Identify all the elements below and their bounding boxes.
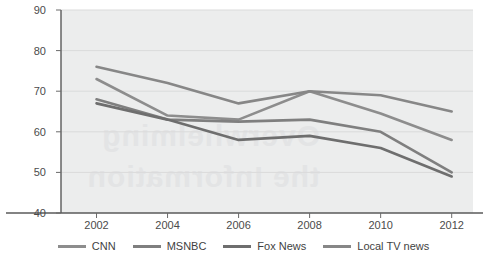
legend-item-local-tv-news[interactable]: Local TV news	[323, 240, 429, 252]
x-axis-tick-label: 2002	[73, 219, 121, 231]
line-chart: Overwhelming the Information 90807060504…	[0, 0, 487, 263]
x-axis-tick-label: 2012	[428, 219, 476, 231]
series-line-fox-news	[97, 103, 452, 176]
y-axis-tick-label: 90	[16, 4, 46, 16]
legend-label: Local TV news	[357, 240, 429, 252]
chart-legend: CNNMSNBCFox NewsLocal TV news	[0, 240, 487, 252]
x-axis-tick-label: 2004	[144, 219, 192, 231]
legend-label: Fox News	[257, 240, 306, 252]
legend-item-cnn[interactable]: CNN	[58, 240, 116, 252]
legend-label: CNN	[92, 240, 116, 252]
series-line-cnn	[97, 79, 452, 140]
x-axis-tick-label: 2010	[357, 219, 405, 231]
legend-swatch-icon	[133, 245, 161, 248]
legend-item-fox-news[interactable]: Fox News	[223, 240, 306, 252]
x-axis-tick-label: 2008	[286, 219, 334, 231]
legend-swatch-icon	[323, 245, 351, 248]
legend-item-msnbc[interactable]: MSNBC	[133, 240, 207, 252]
legend-swatch-icon	[223, 245, 251, 248]
y-axis-tick-label: 80	[16, 45, 46, 57]
x-axis-tick-label: 2006	[215, 219, 263, 231]
y-axis-tick-label: 40	[16, 207, 46, 219]
legend-swatch-icon	[58, 245, 86, 248]
legend-label: MSNBC	[167, 240, 207, 252]
series-line-msnbc	[97, 99, 452, 172]
y-axis-tick-label: 50	[16, 166, 46, 178]
y-axis-tick-label: 60	[16, 126, 46, 138]
y-axis-tick-label: 70	[16, 85, 46, 97]
